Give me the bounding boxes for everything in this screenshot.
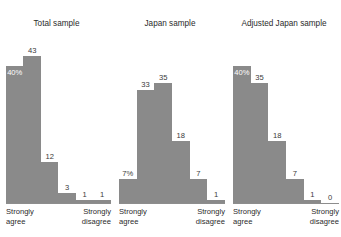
bar-group: 40%3518710 [233,30,339,203]
bar[interactable] [58,193,75,203]
bar-slot[interactable]: 35 [251,30,269,203]
axis-label-line: Strongly [82,207,111,217]
bar-slot[interactable]: 18 [172,30,190,203]
bar-value-label: 1 [83,191,87,199]
bar-slot[interactable]: 7 [286,30,304,203]
axis-label-line: Strongly [233,207,261,217]
chart-panel: Adjusted Japan sample40%3518710Stronglya… [227,0,341,237]
bar-value-label: 0 [328,194,332,202]
bar-slot[interactable]: 0 [321,30,339,203]
bar-slot[interactable]: 43 [23,30,40,203]
x-axis-line [119,203,225,204]
bar-slot[interactable]: 3 [58,30,75,203]
bar[interactable] [137,90,155,203]
bar-slot[interactable]: 1 [93,30,110,203]
bar-value-label: 43 [28,47,36,55]
chart-panel: Japan sample7%33351871StronglyagreeStron… [113,0,227,237]
bar[interactable] [119,179,137,203]
axis-label-group: StronglyagreeStronglydisagree [233,207,339,233]
bar[interactable] [154,83,172,203]
bar[interactable] [233,66,251,203]
bar-value-label: 7 [196,170,200,178]
bar-slot[interactable]: 7 [190,30,208,203]
bar-value-label: 12 [45,153,53,161]
axis-label-strongly-agree: Stronglyagree [233,207,261,226]
bar-slot[interactable]: 40% [233,30,251,203]
bar[interactable] [190,179,208,203]
bar[interactable] [172,141,190,203]
bar-slot[interactable]: 35 [154,30,172,203]
bar-slot[interactable]: 7% [119,30,137,203]
bar-slot[interactable]: 40% [6,30,23,203]
bar[interactable] [268,141,286,203]
axis-label-line: Strongly [6,207,34,217]
axis-label-strongly-agree: Stronglyagree [119,207,147,226]
bar[interactable] [6,66,23,203]
bar-slot[interactable]: 33 [137,30,155,203]
axis-label-strongly-disagree: Stronglydisagree [310,207,339,226]
bar-value-label: 1 [100,191,104,199]
axis-label-line: agree [119,217,147,227]
bar-slot[interactable]: 18 [268,30,286,203]
axis-label-line: Strongly [310,207,339,217]
bar[interactable] [251,83,269,203]
axis-label-line: disagree [196,217,225,227]
axis-label-group: StronglyagreeStronglydisagree [6,207,111,233]
axis-label-strongly-disagree: Stronglydisagree [196,207,225,226]
bar-value-label: 1 [310,191,314,199]
bar-value-label: 35 [255,74,263,82]
bar-value-label: 40% [7,69,22,77]
chart-panel: Total sample40%4312311StronglyagreeStron… [0,0,113,237]
axis-label-strongly-agree: Stronglyagree [6,207,34,226]
axis-label-group: StronglyagreeStronglydisagree [119,207,225,233]
bar-value-label: 18 [177,132,185,140]
axis-label-line: agree [6,217,34,227]
bar-value-label: 3 [65,184,69,192]
x-axis-line [6,203,111,204]
axis-label-strongly-disagree: Stronglydisagree [82,207,111,226]
axis-label-line: agree [233,217,261,227]
bar-chart-figure: Total sample40%4312311StronglyagreeStron… [0,0,341,237]
plot-area: 7%33351871 [113,0,227,204]
bar-value-label: 7% [122,170,133,178]
bar-group: 7%33351871 [119,30,225,203]
axis-label-line: disagree [310,217,339,227]
axis-label-line: Strongly [196,207,225,217]
axis-label-line: disagree [82,217,111,227]
bar-value-label: 18 [273,132,281,140]
bar-value-label: 7 [293,170,297,178]
bar-value-label: 40% [234,69,249,77]
plot-area: 40%3518710 [227,0,341,204]
bar[interactable] [23,56,40,203]
bar-slot[interactable]: 12 [41,30,58,203]
x-axis-line [233,203,339,204]
axis-label-line: Strongly [119,207,147,217]
bar-slot[interactable]: 1 [207,30,225,203]
bar-group: 40%4312311 [6,30,111,203]
bar-slot[interactable]: 1 [304,30,322,203]
bar-value-label: 1 [214,191,218,199]
bar-value-label: 35 [159,74,167,82]
bar[interactable] [286,179,304,203]
bar-value-label: 33 [141,81,149,89]
bar-slot[interactable]: 1 [76,30,93,203]
plot-area: 40%4312311 [0,0,113,204]
bar[interactable] [41,162,58,203]
